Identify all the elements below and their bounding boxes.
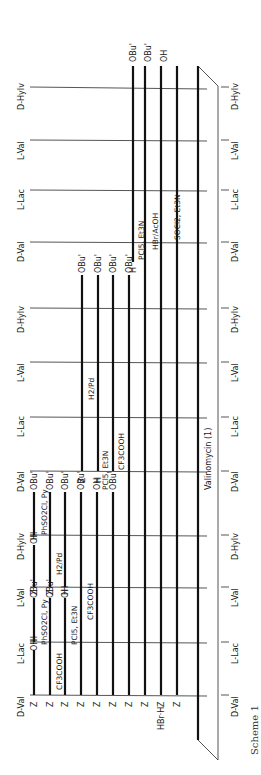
svg-text:OBu': OBu'	[144, 43, 153, 62]
svg-text:H: H	[61, 589, 70, 595]
svg-text:CF3COOH: CF3COOH	[55, 653, 64, 690]
svg-text:PhSO2Cl, Py: PhSO2Cl, Py	[40, 599, 49, 645]
residue-label: L-Val	[17, 363, 26, 382]
svg-text:OBu': OBu'	[109, 471, 118, 490]
residue-label: D-Val	[17, 241, 26, 262]
cyclization-frame	[198, 66, 218, 760]
svg-text:OBu': OBu'	[129, 43, 138, 62]
top-residue-labels: D-Val L-Lac L-Val D-HyIv D-Val L-Lac L-V…	[17, 83, 26, 717]
svg-text:OH: OH	[160, 50, 169, 62]
residue-label: L-Val	[231, 363, 240, 382]
svg-text:Z: Z	[46, 701, 55, 707]
svg-text:OBu': OBu'	[94, 254, 103, 273]
residue-label: D-HyIv	[17, 306, 26, 333]
residue-label: D-HyIv	[231, 306, 240, 333]
svg-text:Z: Z	[125, 701, 134, 707]
svg-text:PCl5, Et3N: PCl5, Et3N	[70, 606, 79, 645]
svg-text:Z: Z	[46, 589, 55, 595]
svg-text:Z: Z	[93, 701, 102, 707]
svg-text:Z: Z	[61, 701, 70, 707]
svg-text:Z: Z	[141, 701, 150, 707]
residue-label: D-HyIv	[17, 83, 26, 110]
residue-label: D-HyIv	[17, 533, 26, 560]
svg-text:OBu': OBu'	[78, 254, 87, 273]
terminal-labels: Z OH H OBu' Z OH H OBu' PhSO2Cl, Py PhSO…	[30, 43, 182, 730]
residue-label: L-Lac	[231, 189, 240, 210]
residue-label: L-Lac	[231, 643, 240, 664]
residue-label: D-HyIv	[231, 83, 240, 110]
residue-label: L-Val	[231, 141, 240, 160]
chain-lines	[34, 66, 177, 695]
scheme-caption: Scheme 1	[249, 705, 260, 755]
residue-label: L-Val	[231, 588, 240, 607]
svg-text:OBu': OBu'	[109, 254, 118, 273]
svg-text:Z: Z	[30, 701, 39, 707]
residue-label: D-Val	[231, 241, 240, 262]
residue-label: D-Val	[17, 471, 26, 492]
svg-text:OBu': OBu'	[46, 471, 55, 490]
svg-text:CF3COOH: CF3COOH	[117, 433, 126, 470]
svg-text:HBr/AcOH: HBr/AcOH	[151, 213, 160, 250]
product-label: Valinomycin (1)	[204, 428, 213, 490]
residue-label: D-HyIv	[231, 533, 240, 560]
svg-text:SOCl2, Et3N: SOCl2, Et3N	[173, 194, 182, 240]
svg-text:PhSO2Cl, Py: PhSO2Cl, Py	[40, 489, 49, 535]
residue-grid	[30, 87, 207, 696]
svg-text:OBu': OBu'	[30, 471, 39, 490]
svg-text:Z: Z	[77, 701, 86, 707]
bottom-residue-labels: D-Val L-Lac L-Val D-HyIv D-Val L-Lac L-V…	[231, 83, 240, 717]
residue-label: D-Val	[231, 696, 240, 717]
svg-text:OBu': OBu'	[61, 471, 70, 490]
svg-text:PCl5, Et3N: PCl5, Et3N	[137, 221, 146, 260]
svg-text:H2/Pd: H2/Pd	[87, 378, 96, 400]
svg-text:H: H	[30, 636, 39, 642]
svg-text:Z: Z	[109, 701, 118, 707]
svg-text:Z: Z	[78, 477, 87, 483]
svg-text:Z: Z	[173, 701, 182, 707]
residue-label: L-Lac	[231, 416, 240, 437]
svg-text:H: H	[94, 477, 103, 483]
svg-text:Z: Z	[157, 701, 166, 707]
residue-label: D-Val	[17, 696, 26, 717]
svg-text:Z: Z	[30, 589, 39, 595]
residue-label: D-Val	[231, 471, 240, 492]
residue-label: L-Lac	[17, 416, 26, 437]
svg-text:H2/Pd: H2/Pd	[55, 553, 64, 575]
svg-text:H: H	[30, 534, 39, 540]
residue-label: L-Val	[17, 141, 26, 160]
svg-text:H: H	[129, 267, 138, 273]
svg-text:CF3COOH: CF3COOH	[86, 583, 95, 620]
residue-label: L-Lac	[17, 643, 26, 664]
svg-text:HBr·H: HBr·H	[157, 707, 166, 730]
residue-label: L-Val	[17, 588, 26, 607]
scheme-diagram: D-Val L-Lac L-Val D-HyIv D-Val L-Lac L-V…	[0, 0, 261, 775]
residue-label: L-Lac	[17, 189, 26, 210]
bottom-ticks	[221, 87, 229, 695]
